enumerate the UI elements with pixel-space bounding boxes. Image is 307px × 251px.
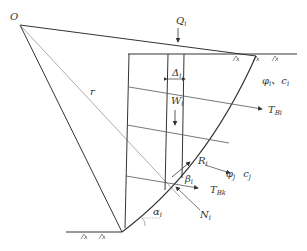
label-lower-soil: φjcj: [226, 168, 252, 181]
slope-stability-diagram: O r Qi Δi Wi φi、ci TBi Ri φjcj βi TBk Ni…: [0, 0, 307, 251]
line-o-to-toe: [20, 25, 122, 232]
label-radius: r: [90, 86, 96, 97]
label-resistance-r: Ri: [197, 155, 208, 168]
slice-left-edge: [165, 54, 168, 190]
slice-right-edge: [182, 54, 184, 178]
label-load-q: Qi: [176, 15, 186, 28]
normal-force-line: [176, 187, 200, 210]
label-normal-n: Ni: [199, 209, 211, 222]
anchor-line-upper: [129, 87, 262, 109]
label-slice-width: Δi: [171, 67, 181, 80]
radius-line: [20, 25, 180, 197]
line-o-to-crest: [20, 25, 256, 56]
slip-surface-arc: [122, 56, 256, 232]
label-weight-w: Wi: [171, 95, 184, 108]
slice-block-left: [125, 54, 129, 228]
ground-hatch-bottom: [81, 234, 105, 239]
label-center-o: O: [10, 11, 18, 22]
label-alpha: αi: [153, 206, 162, 219]
label-upper-soil: φi、ci: [262, 75, 289, 88]
label-anchor-upper: TBi: [268, 104, 282, 117]
label-beta: βi: [184, 173, 193, 186]
alpha-angle-arc: [142, 218, 145, 226]
label-anchor-lower: TBk: [210, 184, 226, 197]
